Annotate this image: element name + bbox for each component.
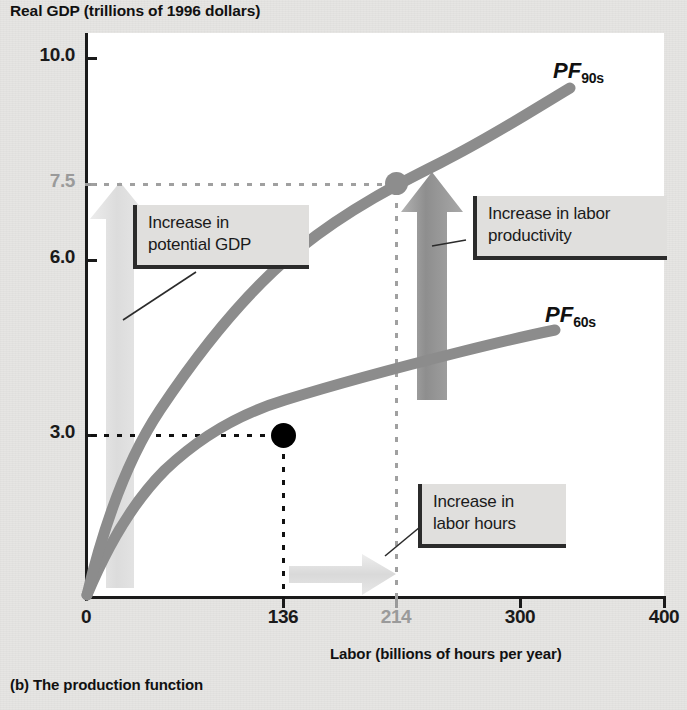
curve-label-pf-60s-main: PF <box>545 302 573 327</box>
y-axis-title: Real GDP (trillions of 1996 dollars) <box>10 2 260 20</box>
x-tick-label-0: 0 <box>46 606 126 628</box>
x-tick-label-300: 300 <box>480 606 560 628</box>
x-tick-label-400: 400 <box>624 606 687 628</box>
callout-increase-in-potential-gdp: Increase in potential GDP <box>137 205 309 265</box>
callout-increase-in-labor-productivity: Increase in labor productivity <box>477 196 667 256</box>
curve-label-pf-90s: PF90s <box>553 58 604 86</box>
y-tick-label-6: 6.0 <box>5 246 75 268</box>
curve-label-pf-60s: PF60s <box>545 302 596 330</box>
guide-line-7-5-horizontal <box>87 183 397 186</box>
curve-label-pf-90s-main: PF <box>553 58 581 83</box>
y-tick-label-10: 10.0 <box>5 44 75 66</box>
x-axis-title: Labor (billions of hours per year) <box>330 645 562 662</box>
guide-line-136-vertical <box>282 437 285 598</box>
data-point-marker-60s[interactable] <box>271 423 296 448</box>
y-tick-label-3: 3.0 <box>5 421 75 443</box>
figure-caption: (b) The production function <box>10 676 203 693</box>
guide-line-3-0-horizontal <box>87 434 285 437</box>
data-point-marker-90s[interactable] <box>385 172 408 195</box>
y-tick-10 <box>85 57 97 60</box>
callout-increase-in-labor-hours: Increase in labor hours <box>422 484 566 544</box>
guide-line-214-vertical <box>395 186 398 598</box>
y-tick-label-7-5: 7.5 <box>5 170 75 192</box>
y-tick-6 <box>85 259 97 262</box>
curve-label-pf-60s-sub: 60s <box>573 314 596 330</box>
y-axis-line <box>85 33 88 601</box>
x-axis-line <box>85 596 665 599</box>
curve-label-pf-90s-sub: 90s <box>581 70 604 86</box>
x-tick-label-214: 214 <box>356 606 436 628</box>
x-tick-label-136: 136 <box>243 606 323 628</box>
